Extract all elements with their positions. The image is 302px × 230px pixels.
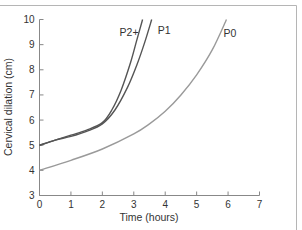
y-tick-label: 6 — [29, 115, 35, 126]
series-group: P2+P1P0 — [40, 20, 237, 171]
series-line-p2-plus — [40, 20, 143, 146]
y-tick-label: 5 — [29, 140, 35, 151]
y-axis-title: Cervical dilation (cm) — [2, 58, 14, 156]
series-label: P1 — [158, 24, 171, 36]
x-axis-title: Time (hours) — [119, 211, 178, 223]
x-tick-label: 3 — [131, 199, 137, 210]
x-tick-label: 0 — [37, 199, 43, 210]
cervical-dilation-chart: 01234567345678910 P2+P1P0 Time (hours) C… — [0, 0, 302, 230]
series-label: P0 — [224, 27, 237, 39]
y-tick-label: 4 — [29, 165, 35, 176]
x-tick-label: 6 — [225, 199, 231, 210]
series-line-p0 — [40, 20, 227, 171]
axes: 01234567345678910 — [23, 14, 262, 210]
x-tick-label: 1 — [68, 199, 74, 210]
y-tick-label: 10 — [23, 14, 35, 25]
series-label: P2+ — [120, 26, 139, 38]
x-tick-label: 2 — [100, 199, 106, 210]
x-tick-label: 5 — [194, 199, 200, 210]
x-tick-label: 4 — [162, 199, 168, 210]
y-tick-label: 7 — [29, 89, 35, 100]
x-tick-label: 7 — [257, 199, 263, 210]
y-tick-label: 9 — [29, 39, 35, 50]
y-tick-label: 8 — [29, 64, 35, 75]
y-tick-label: 3 — [29, 190, 35, 201]
